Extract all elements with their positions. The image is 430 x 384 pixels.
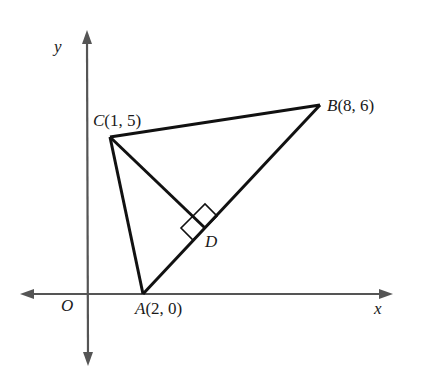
x-axis-right-arrow-icon bbox=[379, 289, 393, 299]
point-d-label: D bbox=[204, 232, 218, 251]
point-c-label: C(1, 5) bbox=[93, 111, 141, 130]
segment-ab bbox=[143, 105, 320, 294]
coordinate-diagram: y x O C(1, 5) B(8, 6) A(2, 0) D bbox=[0, 0, 430, 384]
segment-cd bbox=[110, 137, 205, 228]
point-a-label: A(2, 0) bbox=[134, 299, 182, 318]
x-axis-label: x bbox=[373, 299, 382, 318]
y-axis-down-arrow-icon bbox=[83, 352, 93, 366]
y-axis-label: y bbox=[52, 37, 62, 56]
point-b-label: B(8, 6) bbox=[327, 96, 374, 115]
y-axis bbox=[82, 30, 93, 366]
origin-label: O bbox=[61, 296, 73, 315]
y-axis-up-arrow-icon bbox=[82, 30, 92, 44]
x-axis-left-arrow-icon bbox=[20, 289, 34, 299]
segment-ca bbox=[110, 137, 143, 294]
triangle-abc bbox=[110, 105, 320, 294]
x-axis bbox=[20, 289, 393, 299]
segment-cb bbox=[110, 105, 320, 137]
